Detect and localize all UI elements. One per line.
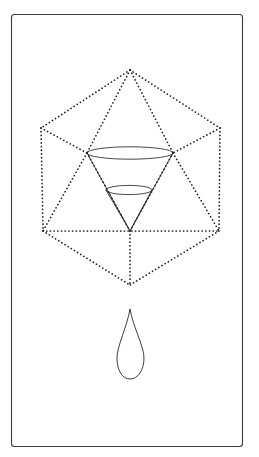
drawing-canvas [0,0,259,457]
geometric-figure [0,0,259,457]
